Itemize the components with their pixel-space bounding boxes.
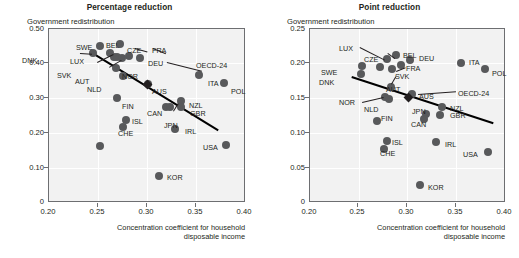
x-axis-title-right-line1: Concentration coefficient for household (377, 223, 505, 232)
label-bel: BEL (106, 42, 120, 50)
label-jpn: JPN (164, 122, 178, 130)
label-bel-2: BEL (403, 52, 417, 60)
x-axis-title-right: Concentration coefficient for household … (318, 223, 505, 242)
label-ita: ITA (208, 80, 219, 88)
data-point-usa (222, 141, 230, 149)
label-can: CAN (147, 110, 162, 118)
label-svk: SVK (57, 72, 71, 80)
label-fra: FRA (152, 47, 166, 55)
label-lux: LUX (70, 58, 84, 66)
label-deu-2: DEU (419, 55, 434, 63)
label-kor-2: KOR (428, 184, 444, 192)
x-tick-left-4: 0.40 (229, 207, 259, 216)
y-tick-left-2: 0.20 (18, 128, 44, 137)
label-lux-2: LUX (339, 45, 353, 53)
data-point-nzl-2 (438, 103, 446, 111)
y-tick-right-0: 0 (278, 197, 305, 206)
label-usa-2: USA (463, 151, 478, 159)
label-svk-2: SVK (395, 73, 409, 81)
data-point-gbr-2 (436, 111, 444, 119)
panel-percentage-reduction: Percentage reduction Government redistri… (0, 0, 259, 258)
data-point-usa-2 (484, 148, 492, 156)
label-fin: FIN (122, 103, 134, 111)
label-cze: CZE (127, 47, 141, 55)
x-tick-right-4: 0.40 (489, 207, 519, 216)
label-gbr: GBR (190, 110, 206, 118)
y-tick-left-0: 0 (18, 197, 44, 206)
label-kor: KOR (167, 174, 183, 182)
x-tick-right-0: 0.20 (294, 207, 324, 216)
data-point-irl-2 (432, 138, 440, 146)
label-deu: DEU (148, 60, 163, 68)
label-usa: USA (203, 144, 218, 152)
label-aut-2: AUT (386, 86, 400, 94)
data-point-pol-2 (481, 65, 489, 73)
x-tick-right-3: 0.35 (440, 207, 470, 216)
y-tick-left-5: 0.50 (18, 24, 44, 33)
label-gbr-2: GBR (450, 112, 466, 120)
label-isl-2: ISL (392, 139, 403, 147)
x-axis-title-left-line1: Concentration coefficient for household (117, 223, 245, 232)
y-tick-right-5: 0.25 (278, 24, 305, 33)
label-can-2: CAN (411, 121, 426, 129)
label-ita-2: ITA (469, 59, 480, 67)
data-point-kor (155, 172, 163, 180)
label-isl: ISL (132, 118, 143, 126)
x-axis-title-left: Concentration coefficient for household … (58, 223, 245, 242)
data-point-kor-2 (416, 181, 424, 189)
data-point-nld-2 (385, 95, 393, 103)
label-aus-2: AUS (419, 93, 434, 101)
label-fin-2: FIN (381, 115, 393, 123)
x-tick-right-2: 0.30 (391, 207, 421, 216)
data-point-ita (195, 71, 203, 79)
panel-title-point-reduction: Point reduction (260, 3, 519, 12)
label-pol-2: POL (492, 70, 506, 78)
label-aus: AUS (152, 88, 167, 96)
y-tick-right-1: 0.05 (278, 163, 305, 172)
leader-dnk (80, 53, 92, 55)
vgridline-right-1 (359, 29, 360, 201)
y-tick-right-3: 0.15 (278, 93, 305, 102)
data-point-dnk-2 (357, 70, 365, 78)
data-point-pol (220, 79, 228, 87)
redistribution-scatter-figure: Percentage reduction Government redistri… (0, 0, 519, 258)
label-cze-2: CZE (364, 56, 378, 64)
panel-point-reduction: Point reduction Government redistributio… (260, 0, 519, 258)
data-point-fin-2 (373, 117, 381, 125)
y-tick-right-4: 0.20 (278, 58, 305, 67)
data-point-isl-2 (383, 137, 391, 145)
label-nor-2: NOR (339, 99, 355, 107)
label-dnk-2: DNK (319, 79, 334, 87)
label-irl-2: IRL (445, 141, 456, 149)
label-swe: SWE (76, 44, 92, 52)
panel-title-percentage-reduction: Percentage reduction (0, 3, 259, 12)
label-swe-2: SWE (321, 69, 337, 77)
x-tick-left-2: 0.30 (131, 207, 161, 216)
label-oecd-right: OECD-24 (458, 90, 489, 98)
label-jpn-2: JPN (412, 108, 426, 116)
data-point-fin (113, 94, 121, 102)
y-tick-left-3: 0.30 (18, 93, 44, 102)
label-irl: IRL (185, 128, 196, 136)
label-fra-2: FRA (406, 65, 420, 73)
label-che-2: CHE (380, 150, 395, 158)
data-point-swe (96, 42, 104, 50)
x-axis-title-right-line2: disposable income (444, 232, 505, 241)
data-point-ita-2 (457, 59, 465, 67)
x-axis-title-left-line2: disposable income (184, 232, 245, 241)
y-tick-left-1: 0.10 (18, 163, 44, 172)
label-nor: NOR (122, 73, 138, 81)
x-tick-left-0: 0.20 (33, 207, 63, 216)
label-dnk: DNK (22, 57, 37, 65)
x-tick-right-1: 0.25 (342, 207, 372, 216)
y-tick-right-2: 0.10 (278, 128, 305, 137)
label-che: CHE (118, 130, 133, 138)
label-nld-2: NLD (364, 106, 378, 114)
label-nld: NLD (87, 86, 101, 94)
label-pol: POL (231, 88, 245, 96)
x-tick-left-1: 0.25 (82, 207, 112, 216)
label-oecd-left: OECD-24 (196, 62, 227, 70)
x-tick-left-3: 0.35 (180, 207, 210, 216)
